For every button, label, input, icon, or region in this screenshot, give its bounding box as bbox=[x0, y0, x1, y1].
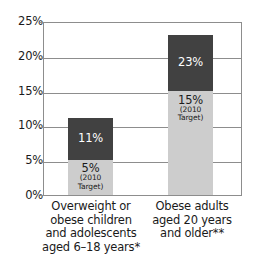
plot-area: 5% (2010 Target) 11% 15% (2010 Target) 2… bbox=[43, 22, 242, 196]
bar-label-target-value-adults: 15% bbox=[168, 94, 213, 106]
bar-label-actual-value-children: 11% bbox=[68, 132, 113, 144]
category-label-children-line4: aged 6–18 years* bbox=[36, 241, 146, 255]
tickmark-20 bbox=[40, 58, 44, 59]
category-label-adults-line1: Obese adults bbox=[140, 200, 244, 214]
tickmark-0 bbox=[40, 195, 44, 196]
bar-label-actual-value-adults: 23% bbox=[168, 56, 213, 68]
bar-segment-actual-adults: 23% bbox=[168, 35, 213, 91]
category-label-adults-line3: and older** bbox=[140, 227, 244, 241]
tickmark-5 bbox=[40, 162, 44, 163]
category-label-adults-line2: aged 20 years bbox=[140, 214, 244, 228]
y-axis-tick-20: 20% bbox=[3, 51, 43, 63]
category-label-adults: Obese adults aged 20 years and older** bbox=[140, 200, 244, 241]
tickmark-10 bbox=[40, 127, 44, 128]
tickmark-15 bbox=[40, 93, 44, 94]
category-label-children: Overweight or obese children and adolesc… bbox=[36, 200, 146, 254]
bar-segment-target-children: 5% (2010 Target) bbox=[68, 160, 113, 195]
y-axis-tick-5: 5% bbox=[3, 155, 43, 167]
y-axis-tick-25: 25% bbox=[3, 16, 43, 28]
bar-chart: 25% 20% 15% 10% 5% 0% 5% (2010 Target) 1… bbox=[0, 0, 256, 264]
bar-segment-actual-children: 11% bbox=[68, 118, 113, 160]
bar-segment-target-adults: 15% (2010 Target) bbox=[168, 91, 213, 195]
y-axis-tick-10: 10% bbox=[3, 120, 43, 132]
tickmark-25 bbox=[40, 22, 44, 23]
category-label-children-line3: and adolescents bbox=[36, 227, 146, 241]
bar-label-target-note2-adults: Target) bbox=[168, 114, 213, 123]
category-label-children-line1: Overweight or bbox=[36, 200, 146, 214]
category-label-children-line2: obese children bbox=[36, 214, 146, 228]
y-axis-tick-15: 15% bbox=[3, 86, 43, 98]
bar-label-target-note2-children: Target) bbox=[68, 183, 113, 192]
